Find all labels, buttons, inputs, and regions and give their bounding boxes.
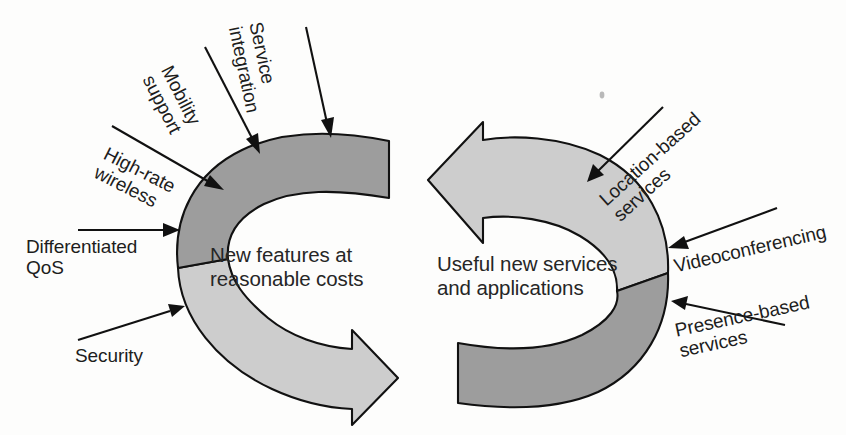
label-left-arrow-center: New features at reasonable costs: [210, 243, 363, 291]
arrow-differentiated-qos: [78, 223, 180, 237]
arrow-service-integration: [306, 27, 334, 138]
diagram-graphics: [0, 0, 846, 435]
label-differentiated-qos: Differentiated QoS: [26, 236, 137, 279]
arrow-security: [78, 304, 185, 340]
scan-speck: [600, 92, 605, 99]
diagram-canvas: High-rate wireless Mobility support Serv…: [0, 0, 846, 435]
label-security: Security: [75, 345, 143, 366]
label-right-arrow-center: Useful new services and applications: [437, 252, 617, 300]
